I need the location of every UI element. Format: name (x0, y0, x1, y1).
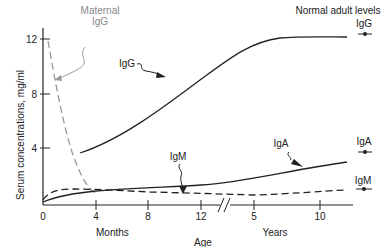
series-igg (80, 37, 347, 153)
y-tick-12: 12 (26, 34, 38, 45)
adult-level-iga: IgA (356, 136, 372, 154)
y-tick-8: 8 (31, 89, 37, 100)
series-maternal-igg (48, 41, 96, 193)
immunoglobulin-chart: 12 8 4 Serum concentrations, mg/ml 0 4 8… (0, 0, 384, 247)
x-tick-12: 12 (195, 211, 207, 222)
annotation-maternal-igg-line2: IgG (92, 16, 108, 27)
arrow-igm-icon (179, 164, 183, 189)
arrowhead-igg-icon (156, 72, 166, 78)
x-tick-8: 8 (145, 211, 151, 222)
arrow-iga-icon (288, 152, 291, 160)
x-tick-10y: 10 (314, 211, 326, 222)
x-label-months: Months (96, 227, 129, 238)
annotation-maternal-igg-line1: Maternal (81, 5, 120, 16)
x-axis-label: Age (194, 237, 212, 247)
annotation-igm: IgM (170, 151, 187, 162)
annotation-igg: IgG (119, 58, 135, 69)
y-ticks: 12 8 4 (26, 34, 50, 154)
x-tick-5y: 5 (251, 211, 257, 222)
chart-svg: 12 8 4 Serum concentrations, mg/ml 0 4 8… (0, 0, 384, 247)
svg-text:IgM: IgM (355, 175, 372, 186)
arrowhead-iga-icon (291, 159, 303, 167)
svg-text:IgG: IgG (356, 18, 372, 29)
annotation-iga: IgA (273, 138, 288, 149)
adult-level-igg: IgG (356, 18, 372, 36)
arrow-maternal-igg-icon (58, 47, 85, 79)
y-axis-label: Serum concentrations, mg/ml (15, 70, 26, 200)
svg-text:IgA: IgA (356, 136, 371, 147)
y-tick-4: 4 (31, 143, 37, 154)
legend-title: Normal adult levels (295, 5, 380, 16)
arrow-igg-icon (137, 64, 160, 75)
series-iga (43, 162, 347, 202)
adult-level-igm: IgM (355, 175, 372, 191)
x-label-years: Years (262, 227, 287, 238)
x-tick-0: 0 (40, 211, 46, 222)
series-igm (43, 189, 347, 200)
x-tick-4: 4 (93, 211, 99, 222)
x-ticks: 0 4 8 12 5 10 (40, 200, 326, 222)
